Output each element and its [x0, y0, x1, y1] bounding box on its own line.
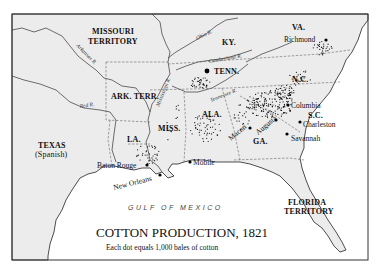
cotton-dot-alabama [195, 127, 196, 128]
label-richmond: Richmond [284, 35, 315, 44]
cotton-dot-tennessee [194, 86, 195, 87]
cotton-dot-alabama [219, 124, 220, 125]
cotton-dot-sc-ga-piedmont [262, 116, 263, 117]
cotton-dot-sc-upcountry [277, 94, 278, 95]
label-ga: GA. [253, 137, 268, 146]
cotton-dot-north-carolina [296, 72, 297, 73]
cotton-dot-louisiana [140, 159, 141, 160]
cotton-dot-sc-ga-piedmont [284, 104, 285, 105]
cotton-dot-virginia [313, 47, 314, 48]
cotton-dot-sc-ga-piedmont [254, 105, 255, 106]
cotton-dot-sc-ga-piedmont [257, 104, 258, 105]
cotton-dot-sc-ga-piedmont [271, 111, 272, 112]
cotton-dot-sc-ga-piedmont [257, 102, 258, 103]
cotton-dot-sc-upcountry [281, 85, 282, 86]
mobile-marker [188, 160, 191, 163]
cotton-dot-louisiana [157, 155, 158, 156]
cotton-dot-tennessee [201, 80, 202, 81]
cotton-dot-louisiana [151, 145, 152, 146]
cotton-dot-georgia-west [236, 121, 237, 122]
cotton-dot-louisiana [147, 155, 148, 156]
cotton-dot-louisiana [155, 147, 156, 148]
cotton-dot-georgia-west [239, 105, 240, 106]
cotton-dot-alabama [197, 117, 198, 118]
cotton-dot-sc-ga-piedmont [270, 104, 271, 105]
cotton-dot-sc-ga-piedmont [255, 109, 256, 110]
cotton-dot-sc-ga-piedmont [266, 105, 267, 106]
columbia-marker [286, 103, 289, 106]
cotton-dot-alabama [194, 122, 195, 123]
cotton-dot-virginia [321, 41, 322, 42]
cotton-dot-virginia [329, 48, 330, 49]
label-tenn: TENN. [214, 67, 239, 76]
cotton-dot-sc-upcountry [289, 86, 290, 87]
cotton-dot-alabama [211, 133, 212, 134]
cotton-dot-sc-ga-piedmont [258, 98, 259, 99]
cotton-dot-sc-ga-piedmont [264, 92, 265, 93]
cotton-dot-sc-ga-piedmont [261, 96, 262, 97]
cotton-dot-tennessee [198, 77, 199, 78]
cotton-dot-tennessee [192, 80, 193, 81]
cotton-dot-georgia-west [238, 118, 239, 119]
cotton-dot-louisiana [157, 159, 158, 160]
cotton-dot-alabama [200, 123, 201, 124]
cotton-dot-sc-ga-piedmont [246, 106, 247, 107]
cotton-dot-virginia [323, 53, 324, 54]
cotton-dot-sc-ga-piedmont [268, 110, 269, 111]
cotton-dot-sc-ga-piedmont [291, 98, 292, 99]
cotton-dot-tennessee [200, 79, 201, 80]
cotton-dot-georgia-west [240, 104, 241, 105]
cotton-dot-sc-ga-piedmont [283, 106, 284, 107]
cotton-dot-sc-upcountry [275, 90, 276, 91]
cotton-dot-sc-ga-piedmont [273, 112, 274, 113]
map-title: COTTON PRODUCTION, 1821 [96, 225, 268, 240]
cotton-dot-louisiana [154, 148, 155, 149]
cotton-dot-sc-ga-piedmont [285, 95, 286, 96]
cotton-dot-sc-ga-piedmont [249, 104, 250, 105]
cotton-dot-miss-north [176, 106, 177, 107]
cotton-dot-sc-ga-piedmont [267, 112, 268, 113]
cotton-dot-georgia-west [234, 114, 235, 115]
cotton-dot-sc-ga-piedmont [261, 92, 262, 93]
cotton-dot-sc-ga-piedmont [261, 111, 262, 112]
cotton-dot-sc-ga-piedmont [265, 98, 266, 99]
cotton-dot-sc-ga-piedmont [286, 113, 287, 114]
cotton-dot-louisiana [140, 146, 141, 147]
cotton-dot-sc-ga-piedmont [279, 104, 280, 105]
cotton-dot-louisiana [154, 160, 155, 161]
cotton-dot-tennessee [199, 82, 200, 83]
cotton-dot-alabama [207, 124, 208, 125]
cotton-dot-sc-upcountry [278, 89, 279, 90]
label-la: LA. [127, 135, 141, 144]
cotton-dot-alabama [199, 134, 200, 135]
cotton-dot-sc-ga-piedmont [255, 94, 256, 95]
cotton-dot-sc-ga-piedmont [275, 105, 276, 106]
cotton-dot-louisiana [145, 155, 146, 156]
label-florida-territory: TERRITORY [284, 207, 334, 216]
cotton-dot-virginia [319, 54, 320, 55]
cotton-dot-virginia [322, 50, 323, 51]
cotton-dot-sc-ga-piedmont [271, 92, 272, 93]
map-subtitle: Each dot equals 1,000 bales of cotton [106, 243, 219, 252]
cotton-dot-tennessee [196, 86, 197, 87]
cotton-dot-virginia [331, 46, 332, 47]
cotton-dot-louisiana [155, 158, 156, 159]
cotton-dot-louisiana [142, 155, 143, 156]
cotton-dot-sc-upcountry [288, 93, 289, 94]
cotton-dot-alabama [192, 133, 193, 134]
cotton-dot-sc-ga-piedmont [281, 108, 282, 109]
label-missouri: MISSOURI [92, 27, 134, 36]
cotton-dot-virginia [323, 44, 324, 45]
cotton-dot-sc-ga-piedmont [269, 92, 270, 93]
cotton-dot-georgia-west [245, 117, 246, 118]
cotton-dot-louisiana [147, 146, 148, 147]
cotton-dot-tennessee [197, 81, 198, 82]
cotton-dot-virginia [323, 48, 324, 49]
cotton-dot-sc-upcountry [291, 88, 292, 89]
cotton-dot-sc-ga-piedmont [263, 109, 264, 110]
cotton-dot-alabama [210, 127, 211, 128]
cotton-dot-sc-ga-piedmont [259, 106, 260, 107]
cotton-dot-sc-ga-piedmont [272, 106, 273, 107]
label-ky: KY. [222, 38, 236, 47]
cotton-dot-sc-ga-piedmont [254, 100, 255, 101]
